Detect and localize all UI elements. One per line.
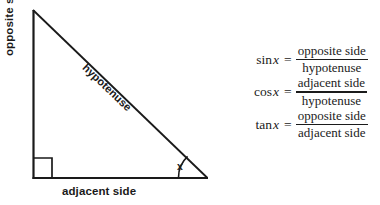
cosine-function-name: cos xyxy=(254,84,272,99)
formula-row-sine: sinx = opposite side hypotenuse xyxy=(228,44,378,75)
sine-numerator: opposite side xyxy=(296,44,368,58)
trigonometry-figure: opposite side adjacent side hypotenuse x… xyxy=(0,0,380,205)
sine-left-hand-side: sinx xyxy=(228,52,284,68)
cosine-equals-sign: = xyxy=(284,84,296,100)
trig-formula-list: sinx = opposite side hypotenuse cosx = a… xyxy=(228,44,378,141)
cosine-variable: x xyxy=(272,84,280,99)
opposite-side-label: opposite side xyxy=(4,0,16,56)
tangent-left-hand-side: tanx xyxy=(228,117,284,133)
right-triangle-diagram: opposite side adjacent side hypotenuse x xyxy=(0,0,220,205)
sine-equals-sign: = xyxy=(284,52,296,68)
tangent-numerator: opposite side xyxy=(296,109,368,123)
cosine-numerator: adjacent side xyxy=(296,76,368,90)
formula-row-cosine: cosx = adjacent side hypotenuse xyxy=(228,76,378,107)
adjacent-side-label: adjacent side xyxy=(62,186,136,198)
formula-row-tangent: tanx = opposite side adjacent side xyxy=(228,109,378,140)
triangle-svg xyxy=(0,0,220,205)
right-angle-marker xyxy=(33,158,52,178)
cosine-denominator: hypotenuse xyxy=(300,94,363,108)
tangent-function-name: tan xyxy=(256,117,273,132)
tangent-fraction: opposite side adjacent side xyxy=(296,109,368,140)
angle-label-x: x xyxy=(177,161,183,172)
cosine-fraction: adjacent side hypotenuse xyxy=(296,76,368,107)
sine-denominator: hypotenuse xyxy=(300,61,363,75)
cosine-left-hand-side: cosx xyxy=(228,84,284,100)
tangent-equals-sign: = xyxy=(284,117,296,133)
tangent-variable: x xyxy=(272,117,280,132)
sine-variable: x xyxy=(272,52,280,67)
tangent-denominator: adjacent side xyxy=(296,126,368,140)
sine-function-name: sin xyxy=(256,52,272,67)
sine-fraction: opposite side hypotenuse xyxy=(296,44,368,75)
